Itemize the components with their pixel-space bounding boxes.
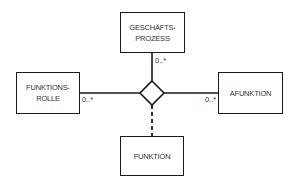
entity-afunktion[interactable]: AFUNKTION	[218, 72, 283, 114]
multiplicity-left: 0..*	[82, 95, 93, 104]
entity-label: FUNKTION	[134, 151, 171, 162]
entity-label-line2: ROLLE	[26, 93, 70, 104]
association-diamond	[140, 81, 164, 105]
entity-geschaeftsprozess[interactable]: GESCHÄFTS- PROZESS	[120, 12, 185, 53]
entity-funktionsrolle[interactable]: FUNKTIONS- ROLLE	[16, 72, 80, 114]
multiplicity-top: 0..*	[155, 56, 166, 65]
entity-label-line1: GESCHÄFTS-	[129, 22, 175, 33]
entity-label: AFUNKTION	[230, 88, 272, 99]
entity-label-line1: FUNKTIONS-	[26, 82, 70, 93]
multiplicity-right: 0..*	[205, 95, 216, 104]
entity-label-line2: PROZESS	[129, 33, 175, 44]
entity-funktion[interactable]: FUNKTION	[120, 136, 184, 176]
